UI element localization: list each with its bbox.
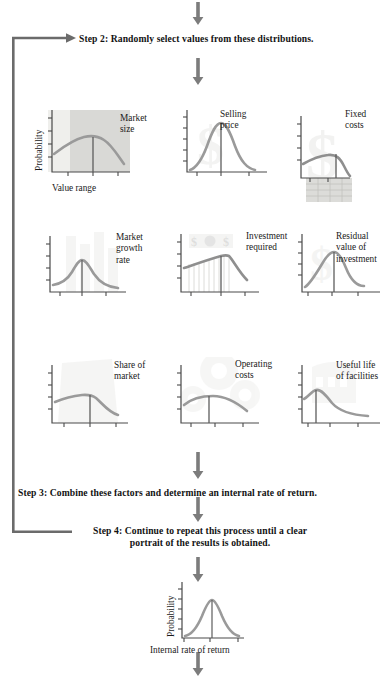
svg-text:$: $ — [223, 235, 229, 249]
arrow-grid-to-step3-icon — [190, 452, 206, 480]
chart-market-size: Market size Probability Value range — [28, 106, 158, 202]
step-4-line-1: Step 4: Continue to repeat this process … — [93, 525, 307, 536]
step-3-label: Step 3: Combine these factors and determ… — [18, 487, 317, 499]
svg-text:$: $ — [191, 235, 197, 249]
axis-label-probability-result: Probability — [166, 596, 176, 637]
axis-label-internal-rate-of-return: Internal rate of return — [150, 645, 230, 655]
chart-share-of-market: Share of market — [28, 357, 158, 445]
chart-internal-rate-of-return: Probability Internal rate of return — [140, 580, 280, 666]
step-4-label: Step 4: Continue to repeat this process … — [78, 525, 322, 549]
chart-fixed-costs-title: Fixed costs — [345, 109, 366, 132]
chart-residual-value-title: Residual value of investment — [336, 231, 377, 265]
chart-market-growth-rate: Market growth rate — [28, 230, 158, 316]
chart-useful-life: Useful life of facilities — [288, 357, 392, 445]
axis-label-probability: Probability — [34, 130, 44, 171]
chart-market-size-title: Market size — [120, 113, 147, 136]
arrow-step3-to-step4-icon — [190, 497, 206, 523]
chart-market-growth-rate-title: Market growth rate — [116, 232, 143, 266]
chart-share-of-market-title: Share of market — [114, 360, 145, 383]
axis-label-value-range: Value range — [52, 183, 96, 193]
chart-residual-value: $ Residual value of investment — [288, 230, 392, 316]
arrow-step2-to-grid-icon — [190, 58, 206, 86]
chart-operating-costs-title: Operating costs — [235, 359, 272, 382]
chart-fixed-costs: $ Fixed costs — [288, 106, 392, 206]
chart-useful-life-title: Useful life of facilities — [336, 360, 378, 383]
diagram-canvas: Step 2: Randomly select values from thes… — [0, 0, 392, 677]
chart-investment-required: $ $ Investment required — [163, 230, 287, 316]
chart-selling-price-title: Selling price — [220, 109, 246, 132]
arrow-top-icon — [190, 2, 206, 26]
chart-investment-required-title: Investment required — [246, 231, 287, 254]
chart-operating-costs: Operating costs — [163, 357, 287, 445]
step-4-line-2: portrait of the results is obtained. — [130, 537, 270, 548]
chart-selling-price: $ Selling price — [163, 106, 283, 188]
step-2-label: Step 2: Randomly select values from thes… — [79, 33, 314, 45]
